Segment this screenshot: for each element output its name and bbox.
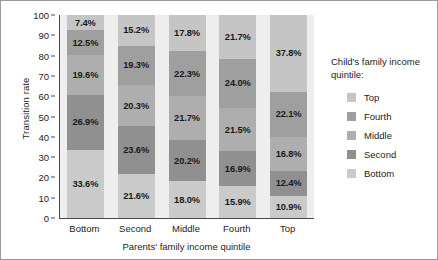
y-tick-label: 80 [15, 50, 49, 61]
bar-segment-second: 12.4% [270, 171, 307, 196]
bar-segment-second: 23.6% [118, 126, 155, 174]
bar-segment-value: 15.2% [123, 25, 149, 35]
y-tick-mark [51, 75, 55, 76]
bar-segment-value: 17.8% [174, 28, 200, 38]
bar-segment-value: 21.5% [225, 125, 251, 135]
bar-segment-value: 10.9% [276, 202, 302, 212]
legend-title: Child's family income quintile: [331, 55, 431, 81]
bar-segment-value: 26.9% [72, 117, 98, 127]
bar-segment-bottom: 18.0% [169, 181, 206, 218]
bar-segment-value: 15.9% [225, 197, 251, 207]
legend-swatch-icon [347, 93, 356, 102]
bar-segment-top: 15.2% [118, 15, 155, 46]
bar-segment-value: 24.0% [225, 78, 251, 88]
x-axis-title: Parents' family income quintile [59, 241, 314, 252]
legend-item-label: Middle [364, 130, 392, 141]
bar-segment-value: 16.9% [225, 164, 251, 174]
x-tick-label-top: Top [280, 223, 295, 234]
bar-segment-value: 20.2% [174, 156, 200, 166]
bar-segment-value: 20.3% [123, 101, 149, 111]
bar-segment-value: 21.7% [225, 32, 251, 42]
legend-swatch-icon [347, 112, 356, 121]
bar-segment-middle: 19.6% [67, 55, 104, 95]
legend-items: TopFourthMiddleSecondBottom [331, 88, 435, 183]
y-tick-mark [51, 218, 55, 219]
legend: Child's family income quintile: TopFourt… [331, 55, 435, 183]
bar-segment-value: 12.5% [72, 38, 98, 48]
y-tick-mark [51, 157, 55, 158]
x-axis-line [59, 218, 314, 219]
bar-segment-value: 33.6% [72, 179, 98, 189]
y-tick-mark [51, 96, 55, 97]
plot-area: 7.4%12.5%19.6%26.9%33.6%15.2%19.3%20.3%2… [59, 15, 314, 218]
bar-second: 15.2%19.3%20.3%23.6%21.6% [118, 15, 155, 218]
bar-segment-value: 37.8% [276, 48, 302, 58]
bar-segment-fourth: 22.1% [270, 92, 307, 137]
bar-segment-middle: 21.5% [219, 108, 256, 152]
x-tick-label-bottom: Bottom [69, 223, 99, 234]
bar-segment-bottom: 33.6% [67, 150, 104, 218]
y-tick-label: 60 [15, 91, 49, 102]
legend-item-label: Fourth [364, 111, 391, 122]
y-tick-label: 50 [15, 111, 49, 122]
bar-segment-value: 22.1% [276, 109, 302, 119]
bar-middle: 17.8%22.3%21.7%20.2%18.0% [169, 15, 206, 218]
bar-segment-top: 17.8% [169, 15, 206, 51]
chart-figure: Transition rate 0102030405060708090100 7… [0, 0, 438, 260]
y-tick-mark [51, 55, 55, 56]
bar-segment-middle: 20.3% [118, 85, 155, 126]
bar-segment-top: 21.7% [219, 15, 256, 59]
bar-segment-value: 21.7% [174, 113, 200, 123]
bar-segment-value: 7.4% [75, 18, 96, 28]
x-tick-label-second: Second [119, 223, 151, 234]
bar-segment-second: 16.9% [219, 151, 256, 185]
bar-segment-fourth: 12.5% [67, 30, 104, 55]
y-axis-ticks: 0102030405060708090100 [17, 15, 55, 218]
y-tick-mark [51, 35, 55, 36]
y-tick-label: 40 [15, 131, 49, 142]
bar-segment-middle: 21.7% [169, 96, 206, 140]
bar-segment-bottom: 21.6% [118, 174, 155, 218]
y-tick-label: 10 [15, 192, 49, 203]
legend-item-middle: Middle [331, 126, 435, 145]
legend-item-bottom: Bottom [331, 164, 435, 183]
bar-segment-fourth: 22.3% [169, 51, 206, 96]
bar-segment-value: 19.3% [123, 60, 149, 70]
legend-item-label: Top [364, 92, 379, 103]
bar-segment-bottom: 15.9% [219, 186, 256, 218]
bar-fourth: 21.7%24.0%21.5%16.9%15.9% [219, 15, 256, 218]
bar-segment-second: 26.9% [67, 95, 104, 150]
y-tick-mark [51, 136, 55, 137]
y-tick-label: 20 [15, 172, 49, 183]
x-tick-label-fourth: Fourth [223, 223, 250, 234]
bar-segment-middle: 16.8% [270, 137, 307, 171]
bar-segment-top: 37.8% [270, 15, 307, 92]
y-tick-label: 30 [15, 152, 49, 163]
bar-bottom: 7.4%12.5%19.6%26.9%33.6% [67, 15, 104, 218]
legend-swatch-icon [347, 169, 356, 178]
legend-swatch-icon [347, 131, 356, 140]
legend-item-top: Top [331, 88, 435, 107]
legend-item-fourth: Fourth [331, 107, 435, 126]
bar-segment-fourth: 19.3% [118, 46, 155, 85]
bar-top: 37.8%22.1%16.8%12.4%10.9% [270, 15, 307, 218]
legend-item-label: Second [364, 149, 396, 160]
bar-segment-bottom: 10.9% [270, 196, 307, 218]
y-tick-label: 100 [15, 10, 49, 21]
bar-segment-value: 18.0% [174, 195, 200, 205]
legend-item-label: Bottom [364, 168, 394, 179]
y-tick-mark [51, 116, 55, 117]
legend-item-second: Second [331, 145, 435, 164]
bar-segment-second: 20.2% [169, 140, 206, 181]
bar-segment-value: 21.6% [123, 191, 149, 201]
y-tick-label: 0 [15, 213, 49, 224]
bar-segment-value: 22.3% [174, 69, 200, 79]
y-tick-mark [51, 15, 55, 16]
bar-segment-fourth: 24.0% [219, 59, 256, 108]
bar-segment-top: 7.4% [67, 15, 104, 30]
y-tick-mark [51, 197, 55, 198]
y-tick-label: 90 [15, 30, 49, 41]
bar-segment-value: 16.8% [276, 149, 302, 159]
bar-segment-value: 12.4% [276, 178, 302, 188]
bar-segment-value: 19.6% [72, 70, 98, 80]
